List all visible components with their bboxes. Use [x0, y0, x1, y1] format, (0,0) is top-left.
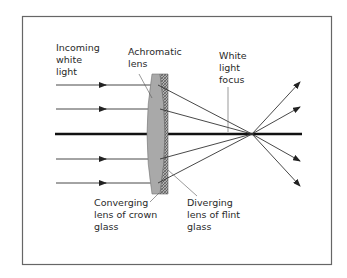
achromatic-lens-diagram: Incoming white light Achromatic lens Whi…	[0, 0, 347, 278]
